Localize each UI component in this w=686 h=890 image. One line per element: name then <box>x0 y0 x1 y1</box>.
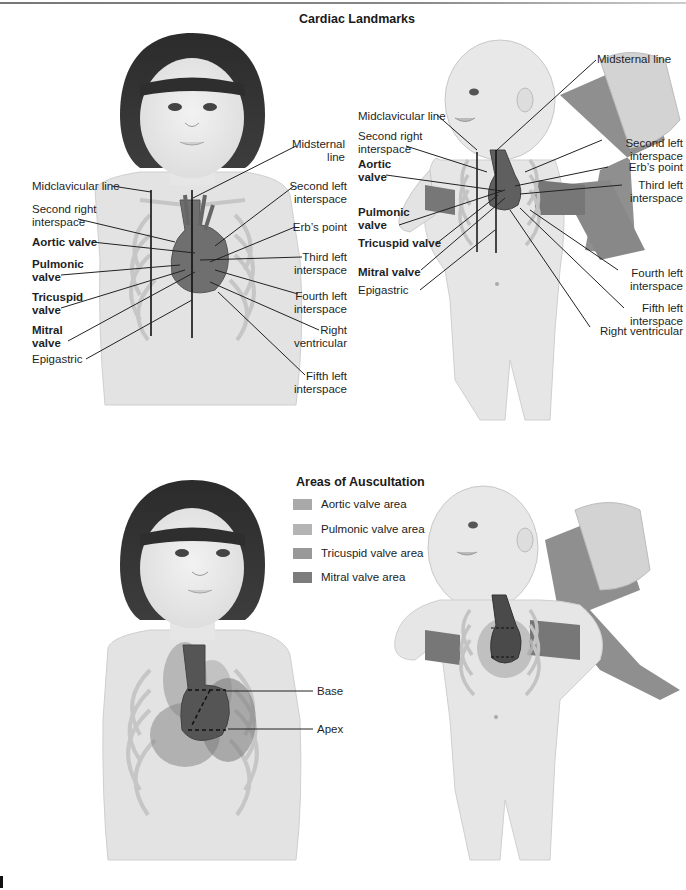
label-right-ventricular: Right ventricular <box>285 324 347 350</box>
infant-label-third-left-interspace: Third left interspace <box>605 179 683 205</box>
cardiac-landmarks-title: Cardiac Landmarks <box>299 12 415 26</box>
label-second-left-interspace: Second left interspace <box>285 180 347 206</box>
label-midclavicular-line: Midclavicular line <box>32 180 120 193</box>
legend-item-mitral: Mitral valve area <box>293 570 405 584</box>
legend-swatch-tricuspid <box>293 548 312 559</box>
areas-of-auscultation-title: Areas of Auscultation <box>296 475 425 489</box>
infant-label-fourth-left-interspace: Fourth left interspace <box>605 267 683 293</box>
infant-label-right-ventricular: Right ventricular <box>580 325 683 338</box>
infant-label-erbs-point: Erb’s point <box>605 161 683 174</box>
anatomical-illustration <box>0 0 686 890</box>
label-third-left-interspace: Third left interspace <box>285 251 347 277</box>
label-pulmonic-valve: Pulmonic valve <box>32 258 84 284</box>
label-epigastric: Epigastric <box>32 353 83 366</box>
infant-figure-top <box>386 40 680 420</box>
infant-label-midsternal-line: Midsternal line <box>597 53 671 66</box>
infant-label-pulmonic-valve: Pulmonic valve <box>358 206 410 232</box>
infant-label-midclavicular-line: Midclavicular line <box>358 110 446 123</box>
label-erbs-point: Erb’s point <box>285 221 347 234</box>
label-second-right-interspace: Second right interspace <box>32 203 97 229</box>
label-fourth-left-interspace: Fourth left interspace <box>285 290 347 316</box>
infant-label-mitral-valve: Mitral valve <box>358 266 421 279</box>
legend-item-pulmonic: Pulmonic valve area <box>293 522 425 536</box>
infant-label-epigastric: Epigastric <box>358 284 409 297</box>
label-mitral-valve: Mitral valve <box>32 324 63 350</box>
legend-item-tricuspid: Tricuspid valve area <box>293 546 423 560</box>
legend-swatch-pulmonic <box>293 524 312 535</box>
legend-swatch-aortic <box>293 499 312 510</box>
label-tricuspid-valve: Tricuspid valve <box>32 291 83 317</box>
label-fifth-left-interspace: Fifth left interspace <box>285 370 347 396</box>
infant-figure-bottom <box>395 486 680 860</box>
legend-item-aortic: Aortic valve area <box>293 497 407 511</box>
infant-label-second-right-interspace: Second right interspace <box>358 130 423 156</box>
infant-label-aortic-valve: Aortic valve <box>358 158 391 184</box>
infant-label-second-left-interspace: Second left interspace <box>605 137 683 163</box>
child-figure-bottom <box>103 480 313 860</box>
label-aortic-valve: Aortic valve <box>32 236 97 249</box>
label-base: Base <box>317 685 343 698</box>
child-figure-top <box>61 33 319 405</box>
label-midsternal-line: Midsternal line <box>290 138 345 164</box>
page-edge-mark <box>0 876 3 888</box>
infant-label-tricuspid-valve: Tricuspid valve <box>358 237 441 250</box>
label-apex: Apex <box>317 723 343 736</box>
legend-swatch-mitral <box>293 572 312 583</box>
